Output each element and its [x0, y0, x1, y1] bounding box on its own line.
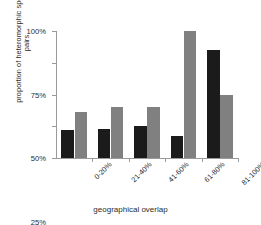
bar-gray-0-20%: [75, 112, 88, 158]
bar-gray-81-100%: [220, 95, 233, 159]
x-axis-title: geographical overlap: [0, 205, 261, 214]
x-tick-end: [238, 158, 239, 162]
y-tick-25: 25%: [52, 126, 56, 127]
y-axis-title-line-2: pairs: [23, 35, 31, 51]
y-tick-label-75: 75%: [31, 90, 46, 99]
bar-dark-0-20%: [61, 130, 74, 158]
x-tick-labels: 0-20%21-40%41-60%61-80%81-100%: [56, 160, 238, 200]
plot-area: 0%25%50%75%100%: [56, 31, 238, 158]
x-tick-label-81-100%: 81-100%: [240, 160, 261, 187]
y-tick-75: 75%: [52, 63, 56, 64]
bar-dark-61-80%: [171, 136, 184, 158]
x-tick-label-21-40%: 21-40%: [130, 160, 154, 184]
x-axis-line: [56, 158, 238, 159]
bar-dark-81-100%: [207, 50, 220, 158]
y-tick-0: 0%: [52, 158, 56, 159]
y-tick-label-25: 25%: [31, 217, 46, 225]
bar-gray-21-40%: [111, 107, 124, 158]
y-tick-50: 50%: [52, 95, 56, 96]
bars-layer: [56, 31, 238, 158]
x-tick-label-0-20%: 0-20%: [92, 160, 113, 181]
x-tick-label-61-80%: 61-80%: [202, 160, 226, 184]
y-axis-title-line-1: proportion of heteromorphic species: [15, 0, 23, 103]
y-tick-label-50: 50%: [31, 154, 46, 163]
x-tick-label-41-60%: 41-60%: [166, 160, 190, 184]
bar-gray-61-80%: [184, 31, 197, 158]
bar-dark-41-60%: [134, 126, 147, 158]
y-tick-label-100: 100%: [27, 27, 46, 36]
bar-gray-41-60%: [147, 107, 160, 158]
y-tick-100: 100%: [52, 31, 56, 32]
chart-root: proportion of heteromorphic species pair…: [0, 0, 261, 225]
bar-dark-21-40%: [98, 129, 111, 158]
